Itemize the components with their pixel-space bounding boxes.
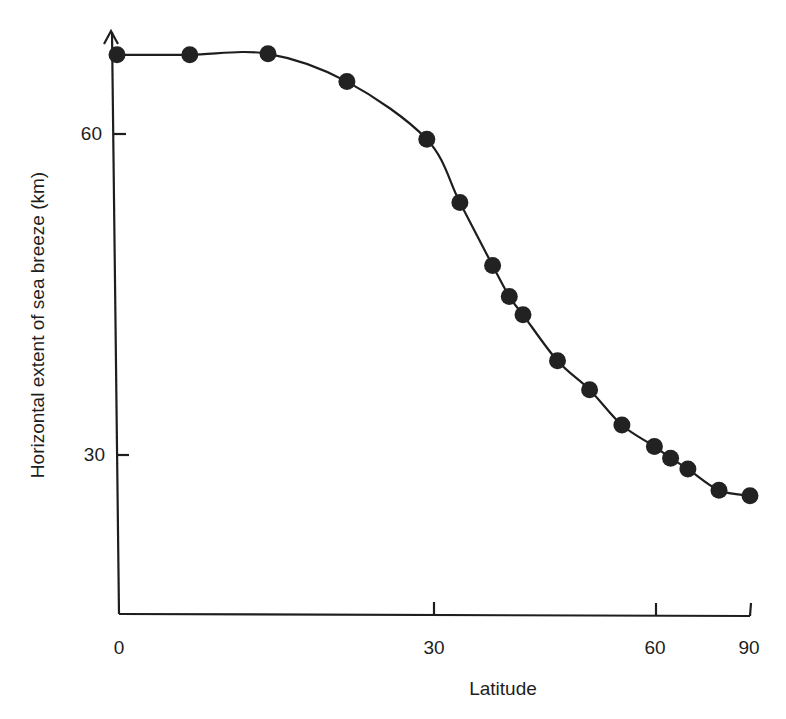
data-point-marker xyxy=(662,450,679,467)
y-tick-label: 60 xyxy=(62,123,102,145)
y-tick-label: 30 xyxy=(65,444,105,466)
data-point-marker xyxy=(451,194,468,211)
data-point-marker xyxy=(679,460,696,477)
data-point-marker xyxy=(181,46,198,63)
x-tick-90 xyxy=(750,603,751,616)
data-point-marker xyxy=(418,131,435,148)
data-points xyxy=(109,45,759,504)
data-point-marker xyxy=(646,438,663,455)
data-point-marker xyxy=(484,257,501,274)
data-point-marker xyxy=(613,417,630,434)
x-tick-label: 30 xyxy=(423,637,444,659)
y-axis-label: Horizontal extent of sea breeze (km) xyxy=(27,172,49,478)
fit-curve xyxy=(117,52,750,496)
x-tick-label: 90 xyxy=(738,637,759,659)
y-axis-line xyxy=(112,32,119,614)
data-point-marker xyxy=(515,306,532,323)
data-point-marker xyxy=(260,45,277,62)
x-axis-label: Latitude xyxy=(469,678,537,700)
axes xyxy=(104,31,751,616)
data-point-marker xyxy=(338,73,355,90)
x-tick-label: 60 xyxy=(644,637,665,659)
data-point-marker xyxy=(109,46,126,63)
data-point-marker xyxy=(742,487,759,504)
chart-canvas xyxy=(0,0,786,719)
data-curve xyxy=(117,52,750,496)
x-tick-label: 0 xyxy=(114,637,125,659)
data-point-marker xyxy=(549,352,566,369)
data-point-marker xyxy=(581,381,598,398)
data-point-marker xyxy=(711,482,728,499)
data-point-marker xyxy=(501,288,518,305)
